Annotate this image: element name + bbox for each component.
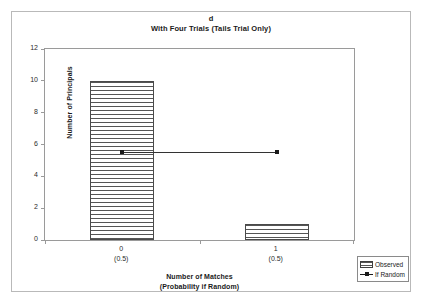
- y-tick-label: 10: [17, 76, 38, 83]
- y-tick-label: 0: [17, 235, 38, 242]
- if-random-data-marker: [275, 150, 279, 154]
- x-axis-title-line2: (Probability if Random): [44, 282, 355, 292]
- x-tick-label: 1(0.5): [236, 244, 316, 264]
- legend-label-observed: Observed: [375, 261, 403, 268]
- y-tick-label: 4: [17, 171, 38, 178]
- chart-panel-label: d: [11, 14, 411, 24]
- y-tick-label: 8: [17, 108, 38, 115]
- line-marker-swatch-icon: [360, 271, 373, 278]
- y-tick-label: 12: [17, 44, 38, 51]
- bar: [245, 224, 309, 240]
- x-tick-label-value: 1: [236, 244, 316, 254]
- y-tick-mark: [41, 176, 45, 177]
- y-tick-mark: [41, 49, 45, 50]
- y-tick-mark: [41, 208, 45, 209]
- x-tick-mark: [45, 240, 46, 244]
- chart-title-block: d With Four Trials (Tails Trial Only): [11, 14, 411, 34]
- y-tick-mark: [41, 112, 45, 113]
- x-tick-label-probability: (0.5): [81, 254, 161, 264]
- x-tick-mark: [200, 240, 201, 244]
- legend-label-if-random: If Random: [375, 271, 405, 278]
- legend-item-observed: Observed: [360, 259, 405, 269]
- x-tick-label: 0(0.5): [81, 244, 161, 264]
- chart-figure: d With Four Trials (Tails Trial Only) Nu…: [0, 0, 423, 307]
- x-tick-mark: [353, 240, 354, 244]
- chart-legend: Observed If Random: [357, 256, 409, 282]
- y-tick-label: 2: [17, 203, 38, 210]
- x-tick-label-probability: (0.5): [236, 254, 316, 264]
- x-tick-label-value: 0: [81, 244, 161, 254]
- y-axis-title: Number of Principals: [66, 33, 73, 173]
- plot-area: Number of Principals 024681012: [44, 48, 355, 241]
- if-random-line-segment: [122, 152, 277, 153]
- if-random-data-marker: [120, 150, 124, 154]
- y-tick-label: 6: [17, 140, 38, 147]
- y-tick-mark: [41, 144, 45, 145]
- bar: [90, 81, 154, 240]
- y-tick-mark: [41, 80, 45, 81]
- hatched-bar-swatch-icon: [360, 261, 373, 268]
- x-axis-title: Number of Matches (Probability if Random…: [44, 272, 355, 292]
- legend-item-if-random: If Random: [360, 269, 405, 279]
- x-axis-title-line1: Number of Matches: [44, 272, 355, 282]
